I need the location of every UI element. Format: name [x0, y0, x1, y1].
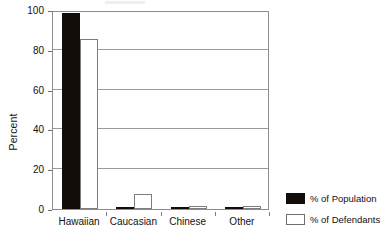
bar-other-population [225, 207, 243, 209]
bar-hawaiian-population [62, 13, 80, 209]
y-axis-tick-label: 0 [10, 205, 44, 215]
bar-chinese-defendants [189, 206, 207, 209]
bar-other-defendants [243, 206, 261, 209]
bar-group-container [53, 12, 268, 209]
legend-swatch-population-icon [286, 193, 305, 204]
x-axis-label-caucasian: Caucasian [106, 216, 160, 227]
legend: % of Population % of Defendants [286, 188, 383, 230]
y-axis-tick-label: 40 [10, 125, 44, 135]
cropped-title-artifact [105, 1, 145, 4]
y-axis-tick-mark [48, 210, 52, 211]
x-axis-tick-mark [269, 212, 270, 216]
y-axis-tick-label: 80 [10, 46, 44, 56]
x-axis-label-hawaiian: Hawaiian [52, 216, 106, 227]
x-axis-category-labels: HawaiianCaucasianChineseOther [52, 212, 269, 228]
y-axis-tick-label: 60 [10, 86, 44, 96]
bar-caucasian-population [116, 207, 134, 209]
legend-label-population: % of Population [310, 194, 377, 204]
legend-item-population[interactable]: % of Population [286, 188, 383, 209]
bar-caucasian-defendants [134, 194, 152, 209]
legend-swatch-defendants-icon [286, 214, 305, 225]
x-axis-label-chinese: Chinese [161, 216, 215, 227]
y-axis-tick-label: 20 [10, 165, 44, 175]
bar-chinese-population [171, 207, 189, 209]
legend-item-defendants[interactable]: % of Defendants [286, 209, 383, 230]
bar-chart: Percent 020406080100 HawaiianCaucasianCh… [0, 0, 383, 241]
x-axis-label-other: Other [215, 216, 269, 227]
bar-hawaiian-defendants [80, 39, 98, 209]
legend-label-defendants: % of Defendants [310, 215, 380, 225]
y-axis-tick-label: 100 [10, 6, 44, 16]
plot-area [52, 11, 269, 210]
